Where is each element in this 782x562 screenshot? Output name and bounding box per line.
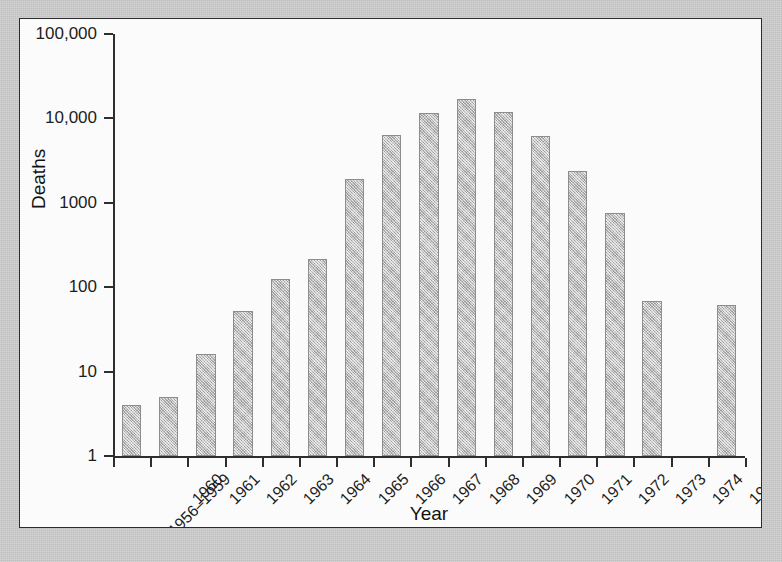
- x-axis-tick: [113, 458, 115, 467]
- y-axis-tick-label: 1: [88, 447, 97, 464]
- bar: [494, 112, 513, 456]
- x-axis-tick: [150, 458, 152, 467]
- y-axis-tick: 1: [104, 455, 113, 457]
- x-axis-tick: [671, 458, 673, 467]
- x-axis-tick: [485, 458, 487, 467]
- bar: [605, 213, 624, 456]
- x-axis-tick: [225, 458, 227, 467]
- plot-area: 100,00010,0001000100101 1956–19591960196…: [113, 34, 745, 458]
- x-axis-tick: [299, 458, 301, 467]
- bar: [642, 301, 661, 456]
- bar: [122, 405, 141, 456]
- x-axis-tick-label: 1972: [635, 471, 671, 507]
- bar: [457, 99, 476, 456]
- y-axis-tick-label: 10,000: [45, 109, 97, 126]
- x-axis-tick-label: 1970: [561, 471, 597, 507]
- x-axis-tick-label: 1962: [264, 471, 300, 507]
- x-axis-tick-label: 1967: [449, 471, 485, 507]
- y-axis-tick: 100: [104, 286, 113, 288]
- x-axis-tick: [373, 458, 375, 467]
- bar: [382, 135, 401, 456]
- bar: [196, 354, 215, 456]
- x-axis-tick-label: 1974: [710, 471, 746, 507]
- bar: [233, 311, 252, 456]
- y-axis-tick-label: 100,000: [36, 25, 97, 42]
- x-axis-tick-label: 1961: [226, 471, 262, 507]
- x-axis-tick: [410, 458, 412, 467]
- y-axis-title: Deaths: [28, 149, 50, 209]
- y-axis-tick-label: 100: [69, 278, 97, 295]
- x-axis-tick-label: 1963: [301, 471, 337, 507]
- x-axis-tick: [708, 458, 710, 467]
- x-axis-tick: [336, 458, 338, 467]
- x-axis-tick: [187, 458, 189, 467]
- y-axis-tick-label: 1000: [59, 193, 97, 210]
- x-axis-tick-label: 1968: [487, 471, 523, 507]
- x-axis-tick-label: 1964: [338, 471, 374, 507]
- bar: [159, 397, 178, 456]
- x-axis-tick: [448, 458, 450, 467]
- bar: [717, 305, 736, 456]
- x-axis-title: Year: [113, 503, 745, 525]
- x-axis-line: [113, 456, 745, 458]
- y-axis-tick: 1000: [104, 202, 113, 204]
- bar: [345, 179, 364, 456]
- x-axis-tick-label: 1966: [412, 471, 448, 507]
- chart-panel: 100,00010,0001000100101 1956–19591960196…: [19, 18, 762, 528]
- x-axis-tick-label: 1975: [747, 471, 762, 507]
- x-axis-tick: [522, 458, 524, 467]
- bar: [271, 279, 290, 456]
- x-axis-tick-label: 1973: [672, 471, 708, 507]
- x-axis-tick: [633, 458, 635, 467]
- x-axis-tick: [262, 458, 264, 467]
- bar: [419, 113, 438, 456]
- y-axis-tick: 10,000: [104, 117, 113, 119]
- x-axis-tick: [745, 458, 747, 467]
- figure-root: 100,00010,0001000100101 1956–19591960196…: [0, 0, 782, 562]
- x-axis-tick: [596, 458, 598, 467]
- bar: [568, 171, 587, 456]
- y-axis-tick-label: 10: [78, 362, 97, 379]
- x-axis-tick: [559, 458, 561, 467]
- x-axis-tick-label: 1965: [375, 471, 411, 507]
- y-axis-tick: 100,000: [104, 33, 113, 35]
- x-axis-tick-label: 1971: [598, 471, 634, 507]
- y-axis-line: [113, 34, 115, 458]
- bar: [531, 136, 550, 456]
- x-axis-tick-label: 1969: [524, 471, 560, 507]
- y-axis-tick: 10: [104, 371, 113, 373]
- bar: [308, 259, 327, 456]
